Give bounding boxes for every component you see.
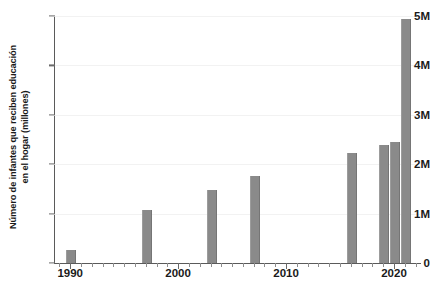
x-tick-minor	[275, 263, 276, 267]
x-tick-minor	[146, 263, 147, 267]
x-tick-minor	[405, 263, 406, 267]
y-axis-title-line1: Número de infantes que reciben educación	[8, 45, 18, 229]
gridline	[54, 65, 420, 66]
gridline	[54, 214, 420, 215]
x-tick-minor	[254, 263, 255, 267]
x-tick-minor	[211, 263, 212, 267]
x-tick-minor	[113, 263, 114, 267]
x-tick-minor	[167, 263, 168, 267]
x-tick-label: 2010	[256, 267, 316, 279]
y-tick-mark	[49, 164, 55, 165]
bar	[401, 19, 411, 263]
plot-area	[54, 16, 420, 263]
bar	[390, 142, 400, 263]
x-axis-line	[54, 263, 421, 264]
x-tick-minor	[372, 263, 373, 267]
y-tick-mark	[49, 114, 55, 115]
x-tick-minor	[92, 263, 93, 267]
x-tick-minor	[362, 263, 363, 267]
x-tick-minor	[81, 263, 82, 267]
gridline	[54, 115, 420, 116]
y-tick-mark	[49, 213, 55, 214]
x-tick-minor	[329, 263, 330, 267]
bar	[142, 210, 152, 263]
x-tick-minor	[135, 263, 136, 267]
x-tick-minor	[157, 263, 158, 267]
x-tick-minor	[383, 263, 384, 267]
bar-chart: Número de infantes que reciben educación…	[0, 0, 430, 300]
x-tick-minor	[221, 263, 222, 267]
bar	[347, 153, 357, 263]
bar	[250, 176, 260, 263]
x-tick-minor	[297, 263, 298, 267]
y-axis-title-line2: en el hogar (millones)	[20, 91, 30, 184]
y-tick-mark	[49, 262, 55, 263]
y-tick-mark	[49, 65, 55, 66]
y-tick-mark	[49, 15, 55, 16]
x-tick-minor	[264, 263, 265, 267]
bar	[66, 250, 76, 263]
x-tick-label: 2020	[364, 267, 424, 279]
bar	[379, 145, 389, 263]
x-tick-minor	[232, 263, 233, 267]
x-tick-minor	[103, 263, 104, 267]
x-tick-label: 2000	[148, 267, 208, 279]
x-tick-minor	[124, 263, 125, 267]
y-axis-title: Número de infantes que reciben educación…	[3, 2, 37, 272]
x-tick-minor	[59, 263, 60, 267]
x-tick-minor	[416, 263, 417, 267]
x-tick-minor	[200, 263, 201, 267]
x-tick-minor	[243, 263, 244, 267]
x-tick-minor	[318, 263, 319, 267]
x-tick-minor	[308, 263, 309, 267]
gridline	[54, 16, 420, 17]
x-tick-minor	[189, 263, 190, 267]
x-tick-minor	[351, 263, 352, 267]
gridline	[54, 164, 420, 165]
x-tick-label: 1990	[40, 267, 100, 279]
x-tick-minor	[340, 263, 341, 267]
bar	[207, 190, 217, 263]
